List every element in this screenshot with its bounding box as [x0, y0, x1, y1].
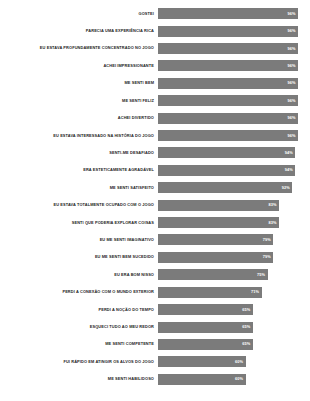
bar-value-label: 79%: [263, 238, 271, 242]
bar-row: ACHEI DIVERTIDO96%: [0, 109, 310, 126]
bar-value-label: 96%: [288, 64, 296, 68]
bar-fill: 96%: [158, 130, 298, 141]
category-label: ESQUECI TUDO AO MEU REDOR: [0, 325, 158, 329]
bar-fill: 65%: [158, 304, 253, 315]
bar-fill: 94%: [158, 147, 295, 158]
bar-value-label: 96%: [288, 99, 296, 103]
bar-fill: 75%: [158, 269, 268, 280]
bar-row: SENTI QUE PODERIA EXPLORAR COISAS83%: [0, 214, 310, 231]
bar-value-label: 60%: [235, 377, 243, 381]
category-label: PERDI A NOÇÃO DO TEMPO: [0, 308, 158, 312]
bar-value-label: 96%: [288, 134, 296, 138]
bar-fill: 60%: [158, 374, 246, 385]
bar-row: GOSTEI96%: [0, 5, 310, 22]
bar-fill: 96%: [158, 113, 298, 124]
bar-fill: 96%: [158, 95, 298, 106]
bar-track: 71%: [158, 287, 310, 298]
bar-row: ME SENTI COMPETENTE65%: [0, 336, 310, 353]
bar-row: ME SENTI SATISFEITO92%: [0, 179, 310, 196]
category-label: EU ME SENTI IMAGINATIVO: [0, 238, 158, 242]
bar-fill: 83%: [158, 200, 279, 211]
category-label: EU ESTAVA INTERESSADO NA HISTÓRIA DO JOG…: [0, 134, 158, 138]
bar-track: 75%: [158, 269, 310, 280]
bar-track: 83%: [158, 200, 310, 211]
bar-fill: 94%: [158, 165, 295, 176]
bar-row: ERA ESTETICAMENTE AGRADÁVEL94%: [0, 162, 310, 179]
bar-track: 83%: [158, 217, 310, 228]
bar-row: EU ESTAVA PROFUNDAMENTE CONCENTRADO NO J…: [0, 40, 310, 57]
bar-row: PERDI A CONEXÃO COM O MUNDO EXTERIOR71%: [0, 284, 310, 301]
bar-track: 65%: [158, 322, 310, 333]
bar-track: 96%: [158, 26, 310, 37]
bar-track: 79%: [158, 252, 310, 263]
caption-strip: [0, 388, 310, 401]
category-label: SENTI-ME DESAFIADO: [0, 151, 158, 155]
category-label: EU ESTAVA TOTALMENTE OCUPADO COM O JOGO: [0, 203, 158, 207]
bar-value-label: 96%: [288, 81, 296, 85]
plot-area: GOSTEI96%PARECIA UMA EXPERIÊNCIA RICA96%…: [0, 5, 310, 388]
bar-value-label: 96%: [288, 116, 296, 120]
bar-track: 92%: [158, 182, 310, 193]
category-label: ERA ESTETICAMENTE AGRADÁVEL: [0, 168, 158, 172]
bar-fill: 96%: [158, 78, 298, 89]
bar-value-label: 96%: [288, 47, 296, 51]
bar-track: 96%: [158, 130, 310, 141]
bar-track: 60%: [158, 374, 310, 385]
bar-value-label: 71%: [251, 290, 259, 294]
bar-track: 65%: [158, 339, 310, 350]
bar-fill: 96%: [158, 26, 298, 37]
category-label: FUI RÁPIDO EM ATINGIR OS ALVOS DO JOGO: [0, 360, 158, 364]
bar-row: PERDI A NOÇÃO DO TEMPO65%: [0, 301, 310, 318]
bar-track: 96%: [158, 95, 310, 106]
bar-fill: 65%: [158, 339, 253, 350]
bar-row: EU ERA BOM NISSO75%: [0, 266, 310, 283]
category-label: GOSTEI: [0, 12, 158, 16]
category-label: SENTI QUE PODERIA EXPLORAR COISAS: [0, 221, 158, 225]
bar-value-label: 94%: [285, 151, 293, 155]
bar-track: 94%: [158, 165, 310, 176]
bar-track: 94%: [158, 147, 310, 158]
bar-fill: 65%: [158, 322, 253, 333]
bar-value-label: 65%: [242, 308, 250, 312]
bar-track: 96%: [158, 60, 310, 71]
bar-value-label: 96%: [288, 12, 296, 16]
category-label: ME SENTI HABILIDOSO: [0, 377, 158, 381]
category-label: ACHEI IMPRESSIONANTE: [0, 64, 158, 68]
bar-value-label: 92%: [282, 186, 290, 190]
bar-value-label: 75%: [257, 273, 265, 277]
bar-row: ACHEI IMPRESSIONANTE96%: [0, 57, 310, 74]
bar-value-label: 94%: [285, 168, 293, 172]
bar-fill: 83%: [158, 217, 279, 228]
bar-fill: 96%: [158, 8, 298, 19]
bar-row: EU ME SENTI BEM SUCEDIDO79%: [0, 249, 310, 266]
bar-track: 96%: [158, 78, 310, 89]
bar-fill: 60%: [158, 356, 246, 367]
bar-fill: 79%: [158, 252, 273, 263]
bar-value-label: 65%: [242, 342, 250, 346]
bar-row: EU ESTAVA INTERESSADO NA HISTÓRIA DO JOG…: [0, 127, 310, 144]
bar-row: PARECIA UMA EXPERIÊNCIA RICA96%: [0, 22, 310, 39]
bar-track: 96%: [158, 113, 310, 124]
bar-value-label: 83%: [269, 221, 277, 225]
bar-row: EU ESTAVA TOTALMENTE OCUPADO COM O JOGO8…: [0, 196, 310, 213]
bar-value-label: 60%: [235, 360, 243, 364]
bar-fill: 96%: [158, 43, 298, 54]
category-label: ME SENTI FELIZ: [0, 99, 158, 103]
category-label: EU ESTAVA PROFUNDAMENTE CONCENTRADO NO J…: [0, 46, 158, 50]
bar-value-label: 83%: [269, 203, 277, 207]
category-label: EU ERA BOM NISSO: [0, 273, 158, 277]
bar-row: ME SENTI BEM96%: [0, 75, 310, 92]
bar-row: ME SENTI HABILIDOSO60%: [0, 371, 310, 388]
bar-row: FUI RÁPIDO EM ATINGIR OS ALVOS DO JOGO60…: [0, 353, 310, 370]
category-label: EU ME SENTI BEM SUCEDIDO: [0, 255, 158, 259]
bar-row: ESQUECI TUDO AO MEU REDOR65%: [0, 318, 310, 335]
bar-row: EU ME SENTI IMAGINATIVO79%: [0, 231, 310, 248]
bar-fill: 79%: [158, 234, 273, 245]
bar-value-label: 79%: [263, 255, 271, 259]
category-label: PARECIA UMA EXPERIÊNCIA RICA: [0, 29, 158, 33]
category-label: ME SENTI SATISFEITO: [0, 186, 158, 190]
bar-track: 79%: [158, 234, 310, 245]
bar-track: 96%: [158, 8, 310, 19]
bar-row: ME SENTI FELIZ96%: [0, 92, 310, 109]
bar-row: SENTI-ME DESAFIADO94%: [0, 144, 310, 161]
